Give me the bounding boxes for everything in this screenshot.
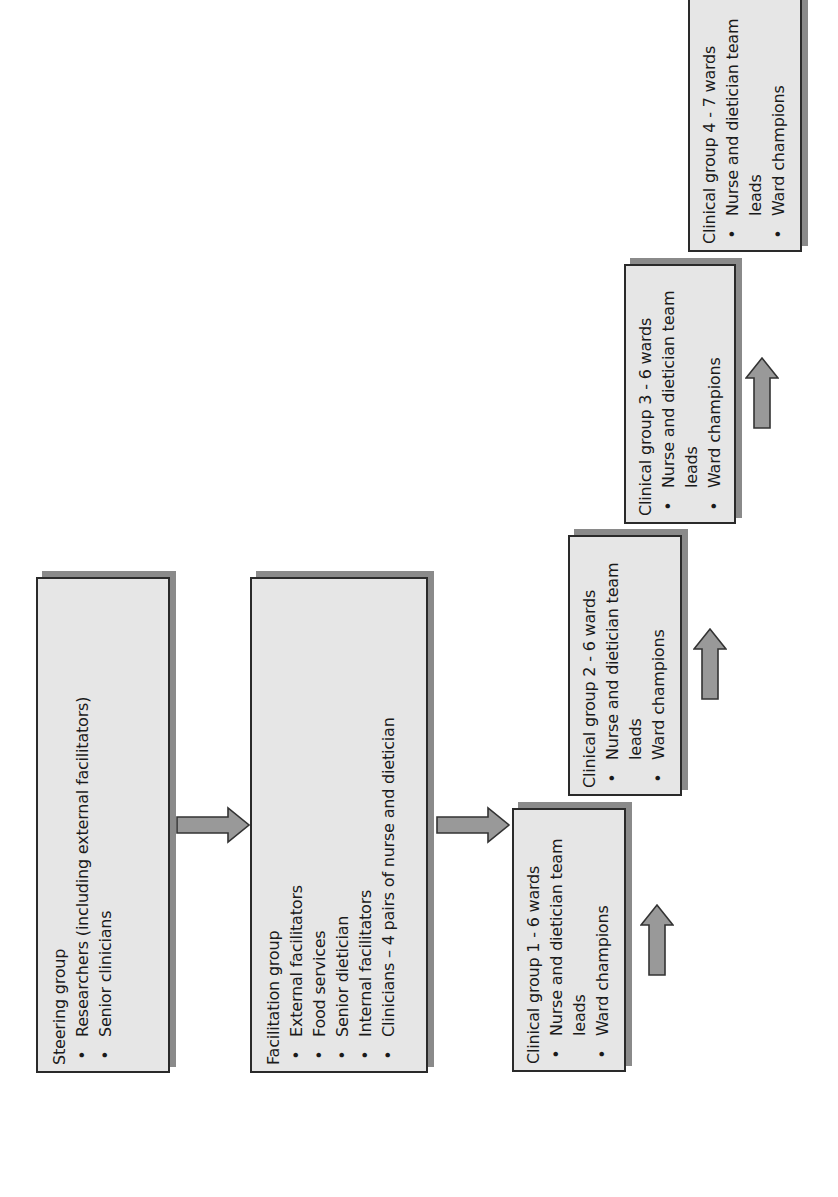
facilitation-group-list: •External facilitators •Food services •S… (285, 589, 400, 1065)
clinical-group-title: Clinical group 4 - 7 wards (698, 0, 721, 244)
bullet-icon: • (703, 501, 726, 511)
facilitation-group-title: Facilitation group (262, 589, 285, 1065)
steering-group-list: •Researchers (including external facilit… (71, 589, 117, 1065)
bullet-icon: • (721, 229, 744, 239)
bullet-icon: • (545, 1049, 568, 1059)
list-item: •Nurse and dietician team leads (721, 0, 767, 244)
clinical-group-list: •Nurse and dietician team leads •Ward ch… (657, 274, 726, 516)
list-item: •Nurse and dietician team leads (657, 274, 703, 516)
clinical-group-4-box: Clinical group 4 - 7 wards •Nurse and di… (688, 0, 802, 252)
list-item: •Senior clinicians (94, 589, 117, 1065)
clinical-group-title: Clinical group 1 - 6 wards (522, 818, 545, 1064)
arrow-up-icon (693, 627, 727, 701)
list-item: •Food services (308, 589, 331, 1065)
clinical-group-2-box: Clinical group 2 - 6 wards •Nurse and di… (568, 535, 682, 796)
steering-group-title: Steering group (48, 589, 71, 1065)
list-item: •Internal facilitators (354, 589, 377, 1065)
list-item: •External facilitators (285, 589, 308, 1065)
list-item: •Ward champions (767, 0, 790, 244)
list-item: •Ward champions (647, 545, 670, 788)
clinical-group-1-box: Clinical group 1 - 6 wards •Nurse and di… (512, 808, 626, 1072)
clinical-group-title: Clinical group 2 - 6 wards (578, 545, 601, 788)
bullet-icon: • (71, 1050, 94, 1060)
list-item: •Ward champions (703, 274, 726, 516)
list-item: •Researchers (including external facilit… (71, 589, 94, 1065)
list-item: •Nurse and dietician team leads (545, 818, 591, 1064)
list-item: •Nurse and dietician team leads (601, 545, 647, 788)
bullet-icon: • (767, 229, 790, 239)
bullet-icon: • (657, 501, 680, 511)
arrow-up-icon (640, 903, 674, 977)
arrow-right-icon (436, 806, 512, 844)
bullet-icon: • (285, 1050, 308, 1060)
list-item: •Ward champions (591, 818, 614, 1064)
clinical-group-3-box: Clinical group 3 - 6 wards •Nurse and di… (624, 264, 736, 524)
bullet-icon: • (601, 773, 624, 783)
bullet-icon: • (377, 1050, 400, 1060)
list-item: •Clinicians – 4 pairs of nurse and dieti… (377, 589, 400, 1065)
bullet-icon: • (331, 1050, 354, 1060)
arrow-up-icon (745, 356, 779, 430)
bullet-icon: • (354, 1050, 377, 1060)
bullet-icon: • (308, 1050, 331, 1060)
clinical-group-list: •Nurse and dietician team leads •Ward ch… (601, 545, 670, 788)
clinical-group-list: •Nurse and dietician team leads •Ward ch… (545, 818, 614, 1064)
facilitation-group-box: Facilitation group •External facilitator… (250, 577, 428, 1073)
list-item: •Senior dietician (331, 589, 354, 1065)
steering-group-box: Steering group •Researchers (including e… (36, 577, 170, 1073)
arrow-right-icon (176, 806, 252, 844)
clinical-group-title: Clinical group 3 - 6 wards (634, 274, 657, 516)
clinical-group-list: •Nurse and dietician team leads •Ward ch… (721, 0, 790, 244)
bullet-icon: • (94, 1050, 117, 1060)
bullet-icon: • (647, 773, 670, 783)
bullet-icon: • (591, 1049, 614, 1059)
